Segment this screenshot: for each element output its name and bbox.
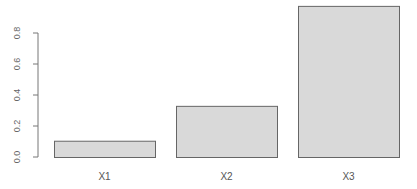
y-tick-label: 0.0 <box>12 151 22 164</box>
bar-chart: 0.00.20.40.60.8 X1X2X3 <box>0 0 417 189</box>
y-tick-label: 0.6 <box>12 58 22 71</box>
x-label-x3: X3 <box>342 171 355 182</box>
x-axis-labels: X1X2X3 <box>98 171 355 182</box>
bars <box>55 6 400 157</box>
y-tick-label: 0.8 <box>12 27 22 40</box>
bar-x1 <box>55 141 156 157</box>
bar-x2 <box>177 106 278 157</box>
x-label-x2: X2 <box>220 171 233 182</box>
y-axis: 0.00.20.40.60.8 <box>12 27 38 164</box>
y-tick-label: 0.2 <box>12 120 22 133</box>
x-label-x1: X1 <box>98 171 111 182</box>
bar-x3 <box>299 6 400 157</box>
y-tick-label: 0.4 <box>12 89 22 102</box>
